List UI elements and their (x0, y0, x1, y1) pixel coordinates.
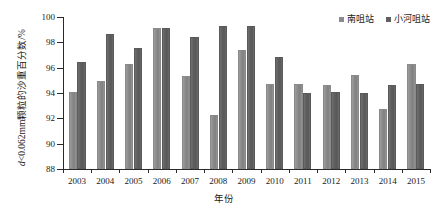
bar-2010-series-1 (275, 57, 283, 169)
y-axis-title-variable: d (17, 161, 27, 166)
bar-2014-series-0 (379, 109, 387, 169)
x-axis-line (63, 169, 430, 170)
bar-2014-series-1 (388, 85, 396, 169)
bar-2003-series-0 (69, 92, 77, 169)
y-tick-100 (57, 17, 63, 18)
x-axis-title: 年份 (0, 193, 447, 205)
x-tick-end (430, 169, 431, 173)
bar-2004-series-0 (97, 81, 105, 169)
x-tick-2012 (317, 169, 318, 173)
y-tick-label-88: 88 (29, 165, 55, 174)
legend-swatch-icon-1 (386, 17, 391, 22)
y-tick-label-98: 98 (29, 38, 55, 47)
bar-2009-series-1 (247, 26, 255, 169)
y-tick-label-wrap-88: 88 (27, 169, 55, 170)
x-tick-2005 (119, 169, 120, 173)
bar-2012-series-0 (323, 85, 331, 169)
y-tick-label-96: 96 (29, 63, 55, 72)
bar-2005-series-1 (134, 48, 142, 169)
chart-legend: 南咀站 小河咀站 (339, 14, 430, 25)
y-tick-label-wrap-98: 98 (27, 42, 55, 43)
y-tick-label-90: 90 (29, 139, 55, 148)
bar-2007-series-0 (182, 76, 190, 169)
x-tick-2014 (374, 169, 375, 173)
y-axis-title-text: <0.062mm颗粒的沙重百分数/% (17, 29, 27, 161)
y-tick-96 (57, 68, 63, 69)
y-tick-94 (57, 93, 63, 94)
x-tick-2013 (345, 169, 346, 173)
x-tick-2009 (232, 169, 233, 173)
legend-label-1: 小河咀站 (394, 14, 430, 25)
y-tick-label-wrap-90: 90 (27, 144, 55, 145)
bar-2010-series-0 (266, 84, 274, 170)
y-tick-90 (57, 144, 63, 145)
y-tick-label-92: 92 (29, 114, 55, 123)
x-tick-2011 (289, 169, 290, 173)
bar-2015-series-0 (407, 64, 415, 169)
x-tick-2010 (261, 169, 262, 173)
bar-2003-series-1 (77, 62, 85, 169)
y-tick-98 (57, 42, 63, 43)
bar-2005-series-0 (125, 64, 133, 169)
bar-2011-series-0 (294, 84, 302, 170)
bar-2013-series-1 (360, 93, 368, 169)
legend-swatch-icon-0 (339, 17, 344, 22)
bar-2013-series-0 (351, 75, 359, 169)
bar-chart: d<0.062mm颗粒的沙重百分数/% 889092949698100 2003… (0, 0, 447, 219)
x-tick-2006 (148, 169, 149, 173)
bar-2006-series-1 (162, 28, 170, 169)
y-tick-label-wrap-96: 96 (27, 68, 55, 69)
legend-label-0: 南咀站 (347, 14, 374, 25)
y-tick-label-wrap-100: 100 (27, 17, 55, 18)
legend-item-0[interactable]: 南咀站 (339, 14, 374, 25)
y-tick-label-wrap-94: 94 (27, 93, 55, 94)
x-tick-label-2015: 2015 (396, 176, 436, 187)
y-tick-92 (57, 118, 63, 119)
x-tick-2003 (63, 169, 64, 173)
y-tick-label-100: 100 (29, 13, 55, 22)
y-axis-title: d<0.062mm颗粒的沙重百分数/% (14, 10, 30, 185)
bar-2011-series-1 (303, 93, 311, 169)
bar-2008-series-1 (219, 26, 227, 169)
x-tick-2008 (204, 169, 205, 173)
bar-2004-series-1 (106, 34, 114, 169)
bar-2012-series-1 (331, 92, 339, 169)
bar-2009-series-0 (238, 50, 246, 169)
legend-item-1[interactable]: 小河咀站 (386, 14, 430, 25)
bar-2015-series-1 (416, 84, 424, 170)
x-tick-2007 (176, 169, 177, 173)
bar-2007-series-1 (190, 37, 198, 169)
y-tick-label-94: 94 (29, 89, 55, 98)
x-tick-2015 (402, 169, 403, 173)
x-tick-2004 (91, 169, 92, 173)
bar-2006-series-0 (153, 28, 161, 169)
bar-2008-series-0 (210, 115, 218, 169)
y-tick-label-wrap-92: 92 (27, 118, 55, 119)
